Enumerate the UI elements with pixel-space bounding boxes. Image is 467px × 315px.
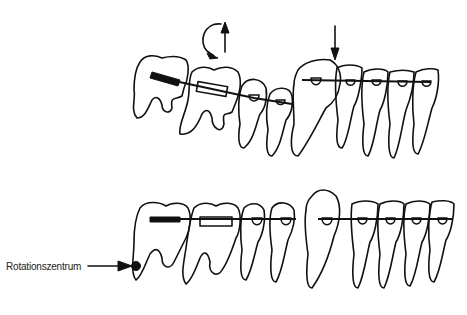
up-arrow-icon [221, 22, 229, 52]
top-arch [133, 22, 438, 158]
dental-diagram: Rotationszentrum [0, 0, 467, 315]
molar-band [150, 72, 180, 86]
rotation-arrow-icon [203, 24, 221, 59]
bottom-arch [88, 190, 454, 288]
rotation-center-pointer-icon [88, 261, 141, 271]
down-arrow-icon [331, 26, 339, 60]
rotation-center-label: Rotationszentrum [6, 261, 81, 272]
